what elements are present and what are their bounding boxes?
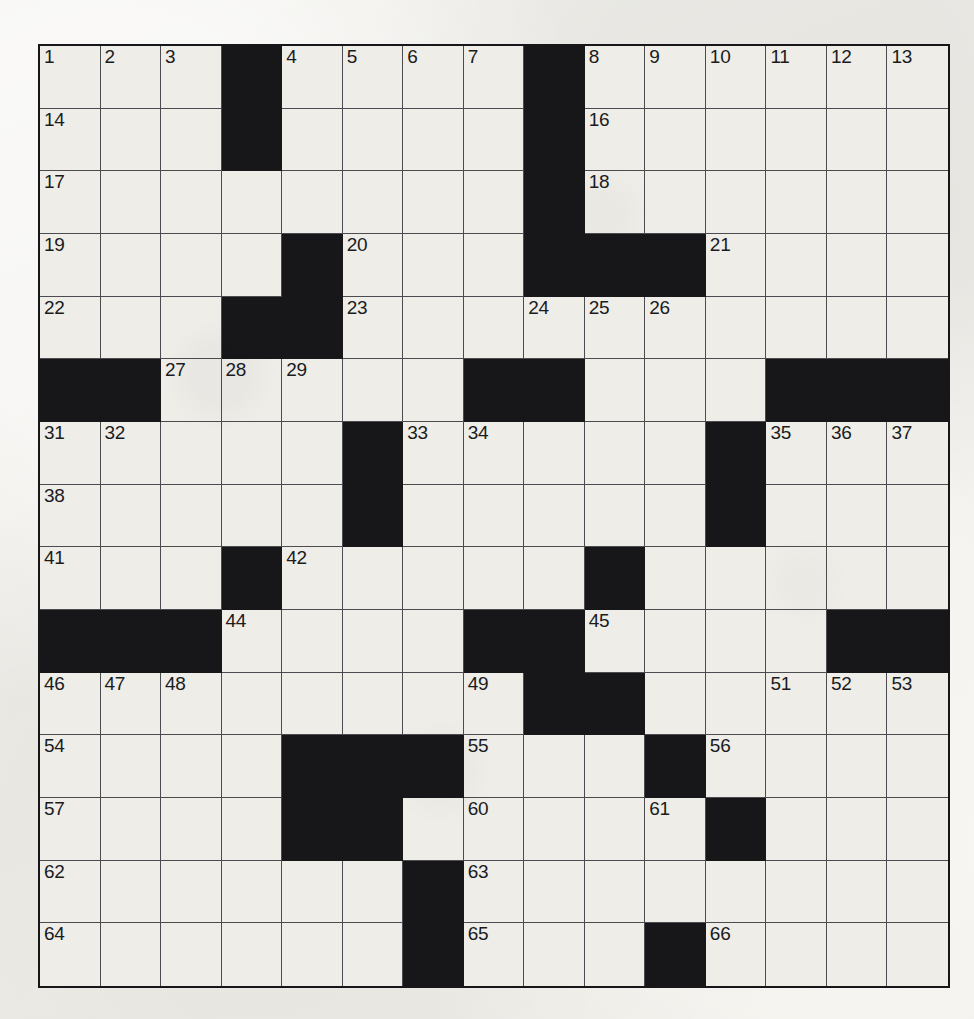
crossword-cell[interactable]: 12	[827, 46, 888, 109]
crossword-cell[interactable]	[827, 861, 888, 924]
crossword-cell[interactable]	[706, 673, 767, 736]
crossword-cell[interactable]: 29	[282, 359, 343, 422]
crossword-cell[interactable]	[524, 735, 585, 798]
crossword-cell[interactable]: 51	[766, 673, 827, 736]
crossword-cell[interactable]: 10	[706, 46, 767, 109]
crossword-grid-container[interactable]: 1234567891011121314161718192021222324252…	[38, 44, 950, 988]
crossword-cell[interactable]	[343, 923, 404, 986]
crossword-cell[interactable]: 38	[40, 485, 101, 548]
crossword-cell[interactable]	[403, 547, 464, 610]
crossword-cell[interactable]	[343, 171, 404, 234]
crossword-cell[interactable]	[887, 735, 948, 798]
crossword-cell[interactable]	[766, 485, 827, 548]
crossword-cell[interactable]	[706, 171, 767, 234]
crossword-cell[interactable]	[706, 359, 767, 422]
crossword-cell[interactable]	[645, 673, 706, 736]
crossword-cell[interactable]	[645, 547, 706, 610]
crossword-cell[interactable]: 13	[887, 46, 948, 109]
crossword-cell[interactable]	[645, 610, 706, 673]
crossword-cell[interactable]	[101, 923, 162, 986]
crossword-cell[interactable]: 62	[40, 861, 101, 924]
crossword-cell[interactable]	[706, 610, 767, 673]
crossword-cell[interactable]: 44	[222, 610, 283, 673]
crossword-cell[interactable]	[766, 109, 827, 172]
crossword-cell[interactable]	[161, 422, 222, 485]
crossword-cell[interactable]	[161, 234, 222, 297]
crossword-cell[interactable]: 24	[524, 297, 585, 360]
crossword-cell[interactable]	[222, 234, 283, 297]
crossword-cell[interactable]	[645, 359, 706, 422]
crossword-cell[interactable]: 14	[40, 109, 101, 172]
crossword-cell[interactable]	[282, 485, 343, 548]
crossword-cell[interactable]: 36	[827, 422, 888, 485]
crossword-cell[interactable]	[585, 485, 646, 548]
crossword-cell[interactable]: 4	[282, 46, 343, 109]
crossword-cell[interactable]	[222, 485, 283, 548]
crossword-cell[interactable]: 46	[40, 673, 101, 736]
crossword-cell[interactable]	[161, 861, 222, 924]
crossword-cell[interactable]: 6	[403, 46, 464, 109]
crossword-cell[interactable]: 63	[464, 861, 525, 924]
crossword-cell[interactable]	[887, 547, 948, 610]
crossword-cell[interactable]: 11	[766, 46, 827, 109]
crossword-cell[interactable]	[524, 547, 585, 610]
crossword-cell[interactable]	[827, 923, 888, 986]
crossword-cell[interactable]	[766, 171, 827, 234]
crossword-cell[interactable]	[403, 297, 464, 360]
crossword-cell[interactable]	[827, 485, 888, 548]
crossword-cell[interactable]: 48	[161, 673, 222, 736]
crossword-cell[interactable]: 34	[464, 422, 525, 485]
crossword-cell[interactable]	[282, 109, 343, 172]
crossword-cell[interactable]	[101, 735, 162, 798]
crossword-cell[interactable]	[464, 547, 525, 610]
crossword-cell[interactable]	[827, 297, 888, 360]
crossword-cell[interactable]	[585, 923, 646, 986]
crossword-cell[interactable]	[161, 485, 222, 548]
crossword-cell[interactable]: 7	[464, 46, 525, 109]
crossword-cell[interactable]: 20	[343, 234, 404, 297]
crossword-cell[interactable]	[343, 861, 404, 924]
crossword-cell[interactable]: 28	[222, 359, 283, 422]
crossword-cell[interactable]: 55	[464, 735, 525, 798]
crossword-cell[interactable]	[645, 109, 706, 172]
crossword-cell[interactable]	[464, 485, 525, 548]
crossword-cell[interactable]	[343, 109, 404, 172]
crossword-cell[interactable]	[524, 798, 585, 861]
crossword-cell[interactable]	[222, 673, 283, 736]
crossword-cell[interactable]	[706, 109, 767, 172]
crossword-cell[interactable]	[887, 798, 948, 861]
crossword-cell[interactable]	[585, 735, 646, 798]
crossword-cell[interactable]: 41	[40, 547, 101, 610]
crossword-cell[interactable]	[645, 861, 706, 924]
crossword-cell[interactable]	[161, 735, 222, 798]
crossword-cell[interactable]	[161, 171, 222, 234]
crossword-cell[interactable]	[706, 861, 767, 924]
crossword-cell[interactable]	[464, 297, 525, 360]
crossword-cell[interactable]: 37	[887, 422, 948, 485]
crossword-cell[interactable]: 21	[706, 234, 767, 297]
crossword-cell[interactable]: 3	[161, 46, 222, 109]
crossword-cell[interactable]	[282, 673, 343, 736]
crossword-cell[interactable]: 64	[40, 923, 101, 986]
crossword-cell[interactable]	[101, 297, 162, 360]
crossword-cell[interactable]: 35	[766, 422, 827, 485]
crossword-cell[interactable]: 17	[40, 171, 101, 234]
crossword-cell[interactable]	[585, 359, 646, 422]
crossword-cell[interactable]	[101, 861, 162, 924]
crossword-cell[interactable]	[766, 297, 827, 360]
crossword-cell[interactable]: 9	[645, 46, 706, 109]
crossword-cell[interactable]	[161, 109, 222, 172]
crossword-cell[interactable]	[645, 422, 706, 485]
crossword-cell[interactable]: 16	[585, 109, 646, 172]
crossword-cell[interactable]: 33	[403, 422, 464, 485]
crossword-cell[interactable]: 18	[585, 171, 646, 234]
crossword-cell[interactable]: 42	[282, 547, 343, 610]
crossword-cell[interactable]: 26	[645, 297, 706, 360]
crossword-cell[interactable]: 61	[645, 798, 706, 861]
crossword-cell[interactable]	[101, 547, 162, 610]
crossword-cell[interactable]	[101, 234, 162, 297]
crossword-cell[interactable]	[101, 171, 162, 234]
crossword-cell[interactable]	[766, 861, 827, 924]
crossword-cell[interactable]	[282, 171, 343, 234]
crossword-cell[interactable]	[887, 297, 948, 360]
